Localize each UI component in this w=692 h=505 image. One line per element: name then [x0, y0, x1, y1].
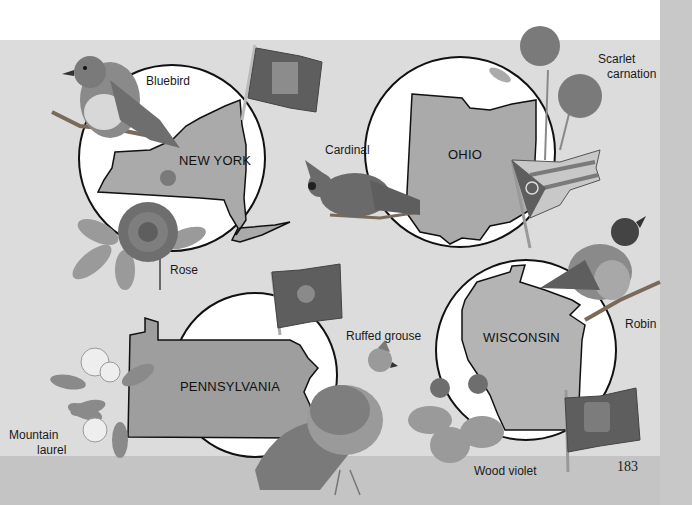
wisconsin-flower-label: Wood violet	[474, 464, 536, 478]
ohio-bird-label: Cardinal	[325, 143, 370, 157]
pennsylvania-state-label: PENNSYLVANIA	[180, 379, 280, 394]
ohio-flower-label-line1: Scarlet	[598, 52, 635, 66]
new-york-state-label: NEW YORK	[179, 153, 251, 168]
ohio-panel	[296, 26, 602, 248]
new-york-flower-label: Rose	[170, 263, 198, 277]
pennsylvania-flower-label-line2: laurel	[37, 443, 66, 457]
pennsylvania-flower-label-line1: Mountain	[9, 428, 58, 442]
wisconsin-state-label: WISCONSIN	[483, 330, 560, 345]
ohio-flower-label-line2: carnation	[607, 67, 656, 81]
ohio-flag-icon	[512, 150, 600, 248]
new-york-flag-icon	[242, 45, 322, 120]
pennsylvania-bird-label: Ruffed grouse	[346, 329, 421, 343]
page-number: 183	[617, 459, 638, 475]
new-york-bird-label: Bluebird	[146, 74, 190, 88]
ohio-state-label: OHIO	[448, 147, 482, 162]
state-symbols-illustration	[0, 0, 692, 505]
wisconsin-bird-label: Robin	[625, 317, 656, 331]
